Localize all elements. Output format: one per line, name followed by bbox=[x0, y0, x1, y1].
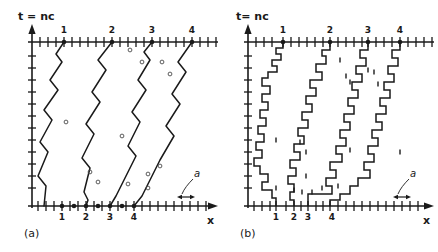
panel-b-lattice-annotation: a bbox=[393, 168, 416, 199]
panel-a-top-tick-label-1: 1 bbox=[61, 25, 67, 35]
panel-a-trajectory-1 bbox=[38, 42, 64, 206]
panel-a-trajectory-4 bbox=[134, 42, 192, 206]
panel-a-bottom-dot-1 bbox=[60, 204, 65, 209]
panel-a-x-tick-label-4: 4 bbox=[131, 212, 137, 222]
panel-b-x-tick-label-2: 2 bbox=[291, 212, 297, 222]
panel-a-bottom-dot-2 bbox=[72, 204, 77, 209]
panel-b-x-tick-label-1: 1 bbox=[273, 212, 279, 222]
panel-a-defect-circle-5 bbox=[64, 120, 68, 124]
panel-a-lattice-label: a bbox=[194, 168, 200, 179]
panel-b-x-axis-label: x bbox=[423, 214, 430, 227]
panel-a-lattice-annotation: a bbox=[177, 168, 200, 199]
panel-b-top-tick-label-2: 2 bbox=[327, 25, 333, 35]
panel-a-bottom-dot-4 bbox=[96, 204, 101, 209]
panel-b-x-axis: 1 2 3 4 x bbox=[244, 201, 434, 227]
panel-a-y-axis-label: t = nc bbox=[18, 10, 55, 23]
panel-a-defect-circle-8 bbox=[96, 180, 100, 184]
panel-b-trajectory-2 bbox=[288, 42, 330, 206]
panel-a-x-tick-label-3: 3 bbox=[107, 212, 113, 222]
panel-a-y-axis bbox=[28, 24, 36, 208]
panel-a-defect-circle-10 bbox=[146, 172, 150, 176]
figure-root: t = nc bbox=[0, 0, 438, 252]
panel-a: t = nc bbox=[18, 10, 218, 240]
panel-b: t= nc bbox=[236, 10, 434, 240]
panel-a-defect-circle-9 bbox=[126, 182, 130, 186]
panel-a-lattice-leader-line bbox=[182, 179, 193, 194]
panel-a-top-tick-label-2: 2 bbox=[109, 25, 115, 35]
panel-b-top-tick-label-3: 3 bbox=[365, 25, 371, 35]
panel-a-label: (a) bbox=[24, 227, 39, 240]
panel-a-bottom-dot-6 bbox=[120, 204, 125, 209]
panel-a-x-axis-label: x bbox=[207, 214, 214, 227]
panel-a-x-axis-arrow bbox=[208, 202, 218, 209]
panel-a-x-tick-label-1: 1 bbox=[59, 212, 65, 222]
panel-a-defect-circle-12 bbox=[158, 164, 162, 168]
panel-a-trajectory-3 bbox=[110, 42, 152, 206]
panel-b-lattice-label: a bbox=[410, 168, 416, 179]
panel-a-defect-circle-6 bbox=[120, 134, 124, 138]
panel-a-bottom-dot-7 bbox=[132, 204, 137, 209]
panel-a-x-tick-label-2: 2 bbox=[83, 212, 89, 222]
panel-a-x-axis: 1 2 3 4 x bbox=[28, 201, 218, 227]
panel-a-bottom-dot-3 bbox=[84, 204, 89, 209]
panel-a-defect-circle-4 bbox=[168, 72, 172, 76]
panel-a-bottom-dot-5 bbox=[108, 204, 113, 209]
panel-b-y-axis-label: t= nc bbox=[236, 10, 269, 23]
panel-a-top-tick-label-4: 4 bbox=[189, 25, 195, 35]
panel-b-top-tick-label-1: 1 bbox=[280, 25, 286, 35]
figure-canvas: t = nc bbox=[0, 0, 438, 252]
panel-b-trajectory-1 bbox=[254, 42, 283, 206]
panel-b-x-tick-label-4: 4 bbox=[329, 212, 335, 222]
panel-a-top-tick-label-3: 3 bbox=[149, 25, 155, 35]
panel-a-defect-circle-2 bbox=[140, 60, 144, 64]
panel-a-trajectories bbox=[38, 42, 192, 206]
panel-a-top-axis: 1 2 3 4 bbox=[28, 25, 218, 47]
panel-b-y-axis bbox=[244, 24, 252, 208]
panel-b-trajectory-3 bbox=[308, 42, 368, 206]
panel-a-y-axis-arrow bbox=[28, 24, 35, 34]
panel-b-x-axis-arrow bbox=[424, 202, 434, 209]
panel-b-x-tick-label-3: 3 bbox=[305, 212, 311, 222]
panel-b-top-tick-label-4: 4 bbox=[397, 25, 403, 35]
panel-b-top-axis: 1 2 3 4 bbox=[244, 25, 434, 47]
panel-b-lattice-leader-line bbox=[398, 179, 409, 194]
panel-b-y-axis-arrow bbox=[244, 24, 251, 34]
panel-a-trajectory-2 bbox=[82, 42, 112, 206]
panel-a-defect-circle-1 bbox=[128, 48, 132, 52]
panel-b-label: (b) bbox=[240, 227, 256, 240]
panel-b-trajectories bbox=[254, 42, 400, 206]
panel-a-defect-circle-3 bbox=[160, 60, 164, 64]
